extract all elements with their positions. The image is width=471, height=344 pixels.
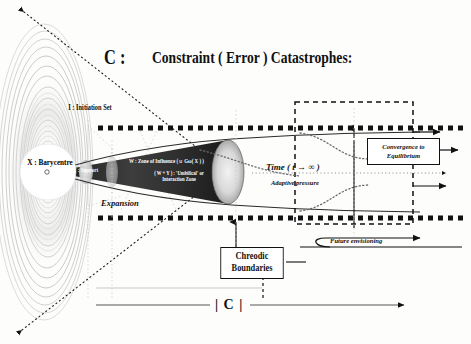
label-expansion: Expansion [101,199,139,208]
label-adaptive-pressure: Adaptive pressure [271,180,319,187]
chreodic-boundaries-box: Chreodic Boundaries [220,247,283,279]
figure-canvas: C : Constraint ( Error ) Catastrophes: I… [0,0,471,344]
label-magnitude-c: | C | [215,298,243,313]
label-future-envisioning: Future envisioning [330,238,382,245]
barycentre-node [20,144,76,200]
label-support: Y : Support [73,168,98,174]
page-title: Constraint ( Error ) Catastrophes: [152,49,352,67]
label-umbilical-zone: ( W + Y ) : 'Umbilical' or Interaction Z… [144,170,214,183]
label-zone-of-influence: W : Zone of Influence ( ∪ Gω( X ) ) [129,159,204,165]
convergence-to-equilibrium-box: Convergence to Equilibrium [367,138,440,165]
label-initiation-set: I : Initiation Set [68,104,112,112]
label-time-axis: Time ( t → ∞ ) [266,163,320,172]
label-barycentre: X : Barycentre [26,158,74,167]
title-prefix: C : [104,46,125,68]
